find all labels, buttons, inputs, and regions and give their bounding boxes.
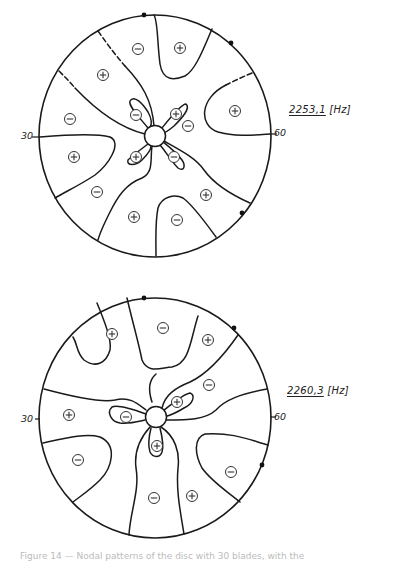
plus-sign-icon <box>152 441 163 452</box>
minus-sign-icon <box>121 412 132 423</box>
plus-sign-icon <box>203 335 214 346</box>
figure-caption: Figure 14 — Nodal patterns of the disc w… <box>20 551 360 562</box>
minus-sign-icon <box>204 380 215 391</box>
frequency-unit: [Hz] <box>327 385 349 396</box>
boundary-dot <box>142 296 147 301</box>
frequency-label: 2260,3 [Hz] <box>287 385 349 396</box>
nodal-pattern-diagram <box>0 0 419 562</box>
hub-circle <box>146 407 167 428</box>
axis-label-60: 60 <box>274 411 286 422</box>
minus-sign-icon <box>73 455 84 466</box>
plus-sign-icon <box>172 397 183 408</box>
minus-sign-icon <box>158 323 169 334</box>
plus-sign-icon <box>107 329 118 340</box>
boundary-dot <box>232 326 237 331</box>
axis-label-30: 30 <box>21 413 33 424</box>
mode-shape-figure-bottom: 30 60 2260,3 [Hz] <box>0 0 419 281</box>
frequency-value: 2260,3 <box>287 385 324 396</box>
plus-sign-icon <box>64 410 75 421</box>
minus-sign-icon <box>226 467 237 478</box>
boundary-dot <box>260 463 265 468</box>
plus-sign-icon <box>187 491 198 502</box>
minus-sign-icon <box>149 493 160 504</box>
